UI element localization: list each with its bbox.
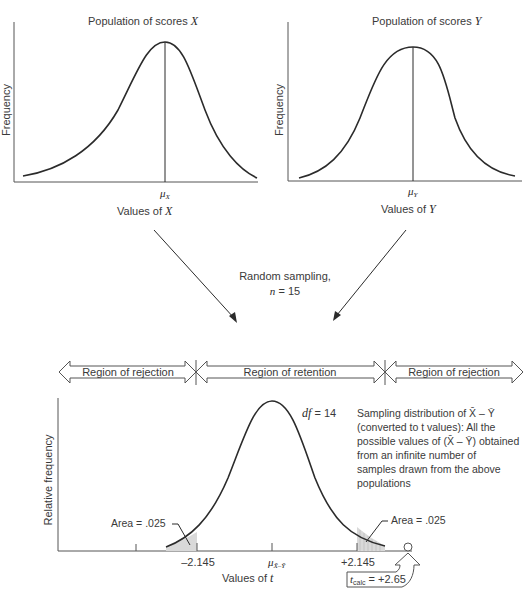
sampling-arrows: Random sampling, n = 15	[154, 230, 406, 323]
svg-text:possible values of (X̄ – Ȳ) ob: possible values of (X̄ – Ȳ) obtained	[357, 435, 519, 447]
region-arrows: Region of rejection Region of retention …	[59, 360, 523, 385]
sampling-distribution-panel: Relative frequency –2.145 μX̄–Ȳ +2.145 V…	[42, 398, 519, 587]
sample-size-label: n = 15	[270, 285, 300, 297]
t-test-diagram: Population of scores X Frequency μX Valu…	[0, 0, 530, 597]
t-calc-marker	[404, 543, 412, 551]
df-label: df = 14	[302, 406, 336, 420]
population-y-x-label: Values of Y	[381, 202, 437, 216]
svg-text:Sampling distribution of X̄ –: Sampling distribution of X̄ – Ȳ	[357, 407, 495, 419]
svg-text:(converted to t values): All t: (converted to t values): All the	[357, 421, 495, 433]
population-y-title: Population of scores Y	[372, 14, 483, 28]
t-distribution-curve	[166, 401, 385, 547]
mean-diff-label: μX̄–Ȳ	[267, 556, 286, 570]
population-x-title: Population of scores X	[88, 14, 199, 28]
population-y-panel: Population of scores Y Frequency μY Valu…	[273, 14, 522, 216]
population-y-curve	[299, 47, 515, 178]
critical-right-label: +2.145	[341, 556, 375, 568]
region-rejection-left-label: Region of rejection	[82, 366, 174, 378]
arrow-from-x	[154, 230, 234, 318]
right-tail-shade	[357, 527, 385, 551]
t-dist-x-label: Values of t	[222, 571, 274, 585]
population-x-panel: Population of scores X Frequency μX Valu…	[0, 14, 258, 218]
population-y-y-label: Frequency	[273, 84, 285, 136]
svg-text:samples drawn from the above: samples drawn from the above	[357, 463, 501, 475]
population-x-y-label: Frequency	[0, 84, 12, 136]
population-x-x-label: Values of X	[117, 204, 173, 218]
population-x-curve	[23, 42, 257, 178]
svg-text:from an infinite number of: from an infinite number of	[357, 449, 476, 461]
region-retention-label: Region of retention	[244, 366, 337, 378]
area-left-label: Area = .025	[111, 517, 166, 529]
sampling-distribution-description: Sampling distribution of X̄ – Ȳ (convert…	[357, 407, 519, 489]
t-dist-y-label: Relative frequency	[42, 434, 54, 526]
random-sampling-label: Random sampling,	[239, 270, 331, 282]
left-tail-shade	[166, 532, 197, 551]
region-rejection-right-label: Region of rejection	[408, 366, 500, 378]
population-y-mean-label: μY	[407, 185, 419, 199]
population-x-mean-label: μX	[159, 187, 171, 201]
arrow-from-y	[337, 230, 406, 315]
critical-left-label: –2.145	[181, 556, 215, 568]
svg-text:populations: populations	[357, 477, 411, 489]
area-right-label: Area = .025	[391, 514, 446, 526]
arrowhead-y	[333, 311, 341, 321]
